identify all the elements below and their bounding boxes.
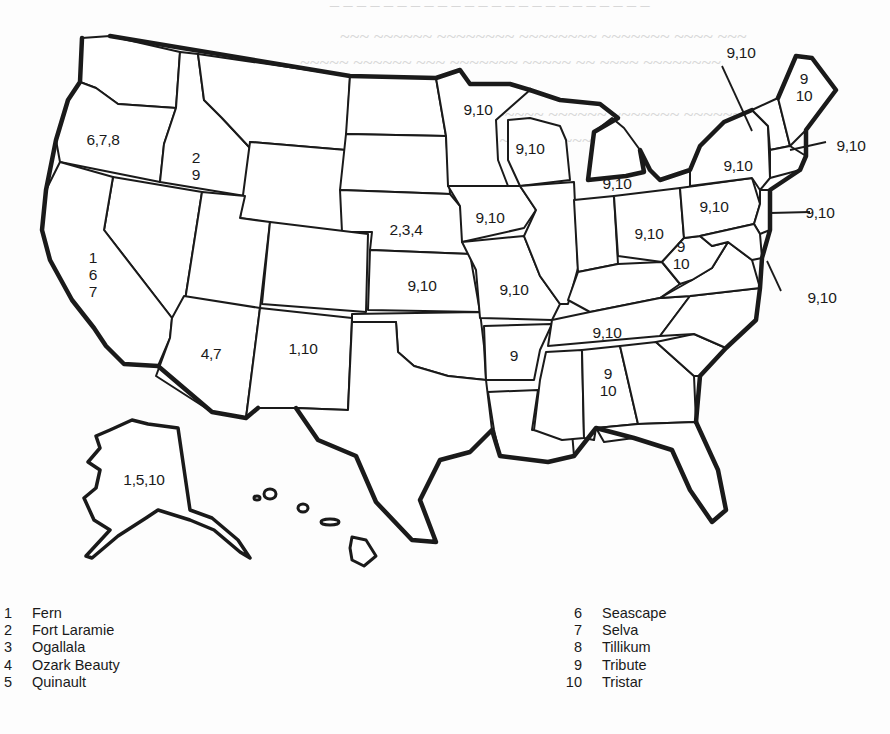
state-alaska (84, 420, 250, 558)
state-indiana (574, 196, 618, 272)
state-label-az: 4,7 (201, 345, 222, 362)
legend-variety-name: Tillikum (602, 639, 651, 656)
legend-variety-name: Ozark Beauty (32, 657, 120, 674)
leader-nj (770, 212, 810, 213)
state-new-york (690, 110, 770, 190)
callout-label-ma-ri-ct: 9,10 (837, 137, 866, 154)
state-label-id: 2 9 (192, 149, 200, 183)
state-label-pa: 9,10 (700, 198, 729, 215)
state-label-mi: 9,10 (603, 175, 632, 192)
legend-variety-name: Ogallala (32, 639, 85, 656)
state-southern-new-england (770, 146, 806, 178)
callout-label-md-de: 9,10 (808, 289, 837, 306)
state-label-wa-or: 6,7,8 (87, 131, 120, 148)
legend-variety-name: Selva (602, 622, 638, 639)
state-colorado (262, 222, 368, 312)
legend-item: 1Fern (2, 605, 120, 622)
legend-item: 4Ozark Beauty (2, 657, 120, 674)
callout-label-vt-nh: 9,10 (727, 44, 756, 61)
state-label-oh: 9,10 (635, 225, 664, 242)
state-label-nm: 1,10 (289, 340, 318, 357)
state-new-mexico (246, 308, 352, 418)
legend-item: 5Quinault (2, 674, 120, 691)
state-mississippi (534, 350, 584, 440)
legend-variety-name: Fern (32, 605, 62, 622)
legend-variety-name: Quinault (32, 674, 86, 691)
state-label-wv: 9 10 (673, 238, 690, 272)
state-label-al: 9 10 (600, 365, 617, 399)
legend-left-column: 1Fern 2Fort Laramie 3Ogallala 4Ozark Bea… (2, 605, 120, 691)
state-label-me: 9 10 (796, 70, 813, 104)
legend-variety-name: Tribute (602, 657, 647, 674)
state-label-wi: 9,10 (516, 140, 545, 157)
legend-item: 9Tribute (556, 657, 667, 674)
state-label-ks: 9,10 (408, 277, 437, 294)
state-hawaii (254, 489, 376, 566)
leader-md-de (767, 261, 781, 291)
us-map (0, 0, 890, 600)
callout-label-nj: 9,10 (806, 204, 835, 221)
state-label-ny: 9,10 (724, 157, 753, 174)
state-south-dakota (340, 134, 450, 194)
legend-right-column: 6Seascape 7Selva 8Tillikum 9Tribute 10Tr… (556, 605, 667, 691)
state-label-mn: 9,10 (464, 101, 493, 118)
state-north-dakota (346, 76, 446, 136)
legend-variety-name: Fort Laramie (32, 622, 114, 639)
state-label-ia: 9,10 (476, 209, 505, 226)
legend-item: 7Selva (556, 622, 667, 639)
legend-item: 6Seascape (556, 605, 667, 622)
state-label-tn: 9,10 (593, 324, 622, 341)
state-label-ak: 1,5,10 (123, 471, 164, 488)
legend-item: 8Tillikum (556, 639, 667, 656)
legend-item: 10Tristar (556, 674, 667, 691)
state-label-ar: 9 (510, 347, 518, 364)
legend-variety-name: Seascape (602, 605, 667, 622)
state-florida (596, 422, 726, 522)
legend-item: 3Ogallala (2, 639, 120, 656)
legend-item: 2Fort Laramie (2, 622, 120, 639)
state-label-mo: 9,10 (500, 281, 529, 298)
state-label-ca: 1 6 7 (89, 249, 97, 300)
state-michigan (588, 118, 644, 180)
state-label-ne: 2,3,4 (390, 221, 423, 238)
legend-variety-name: Tristar (602, 674, 643, 691)
